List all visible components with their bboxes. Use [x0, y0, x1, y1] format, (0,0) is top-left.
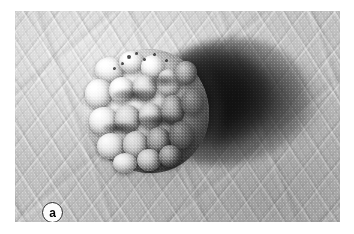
panel-label-badge: a [42, 202, 63, 222]
clinical-photograph: a [15, 11, 340, 222]
photo-grain [15, 11, 340, 222]
figure-panel: a [0, 0, 354, 234]
panel-label-text: a [49, 207, 56, 219]
